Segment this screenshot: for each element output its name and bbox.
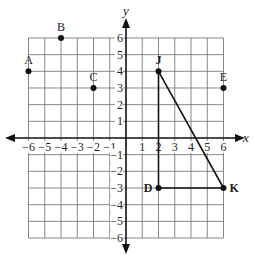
point-label-e: E (220, 70, 227, 84)
y-axis-up-arrow-icon (122, 18, 130, 28)
x-axis-label: x (242, 130, 249, 145)
point-a (26, 68, 32, 74)
point-b (58, 35, 64, 41)
x-tick-label: 5 (204, 140, 210, 154)
x-tick-label: 6 (221, 140, 227, 154)
point-c (91, 85, 97, 91)
point-label-b: B (57, 20, 65, 34)
point-label-d: D (144, 181, 153, 195)
point-k (221, 185, 227, 191)
y-tick-label: 2 (117, 98, 123, 112)
y-axis-down-arrow-icon (122, 244, 130, 254)
point-label-j: J (156, 53, 162, 67)
y-tick-label: −1 (110, 148, 123, 162)
coordinate-plane: −6−5−4−3−2−1123456654321−1−2−3−4−5−6 ABC… (0, 0, 255, 265)
axes (5, 18, 245, 254)
y-tick-label: 5 (117, 48, 123, 62)
point-d (156, 185, 162, 191)
y-tick-label: −4 (110, 198, 123, 212)
y-tick-label: −3 (110, 181, 123, 195)
point-label-k: K (230, 181, 240, 195)
x-tick-label: −2 (87, 140, 100, 154)
y-tick-label: 4 (117, 64, 123, 78)
x-tick-label: −5 (38, 140, 51, 154)
y-tick-label: −2 (110, 164, 123, 178)
y-tick-label: −6 (110, 231, 123, 245)
y-axis-label: y (121, 3, 129, 18)
y-tick-label: −5 (110, 214, 123, 228)
y-tick-label: 6 (117, 31, 123, 45)
x-tick-label: −4 (55, 140, 68, 154)
x-tick-label: 1 (139, 140, 145, 154)
x-tick-label: −6 (22, 140, 35, 154)
point-e (221, 85, 227, 91)
y-tick-label: 1 (117, 114, 123, 128)
x-tick-label: 4 (188, 140, 194, 154)
point-j (156, 68, 162, 74)
point-label-c: C (89, 70, 97, 84)
y-tick-label: 3 (117, 81, 123, 95)
x-tick-label: 3 (172, 140, 178, 154)
point-label-a: A (24, 53, 33, 67)
x-tick-label: −3 (71, 140, 84, 154)
x-axis-left-arrow-icon (5, 134, 15, 142)
